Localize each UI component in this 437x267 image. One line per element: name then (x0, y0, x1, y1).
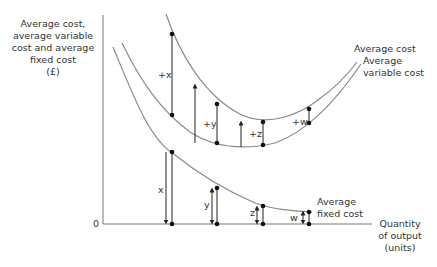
plus-z-label: +z (249, 128, 262, 140)
x-axis-label-line: of output (372, 230, 428, 242)
avc-label-line: variable cost (363, 67, 424, 79)
y-axis-label-line: (£) (4, 66, 102, 78)
plus-y-label: +y (203, 118, 217, 130)
z-label: z (250, 207, 255, 219)
y-axis-label-line: cost and average (4, 42, 102, 54)
origin-label: 0 (93, 218, 99, 230)
x-axis-label: Quantity of output (units) (372, 218, 428, 254)
average-fixed-cost-label: Average fixed cost (317, 196, 363, 220)
y-axis-label-line: Average cost, (4, 18, 102, 30)
x-axis-label-line: (units) (372, 242, 428, 254)
plus-x-label: +x (158, 69, 172, 81)
y-axis-label: Average cost, average variable cost and … (4, 18, 102, 78)
w-label: w (290, 212, 298, 224)
x-label: x (158, 184, 164, 196)
y-label: y (204, 199, 210, 211)
plus-w-label: +w (292, 116, 308, 128)
average-variable-cost-label: Average variable cost (363, 55, 424, 79)
x-axis-label-line: Quantity (372, 218, 428, 230)
avc-label-line: Average (363, 55, 424, 67)
average-cost-label: Average cost (354, 43, 416, 55)
afc-label-line: fixed cost (317, 208, 363, 220)
y-axis-label-line: average variable (4, 30, 102, 42)
afc-label-line: Average (317, 196, 363, 208)
y-axis-label-line: fixed cost (4, 54, 102, 66)
